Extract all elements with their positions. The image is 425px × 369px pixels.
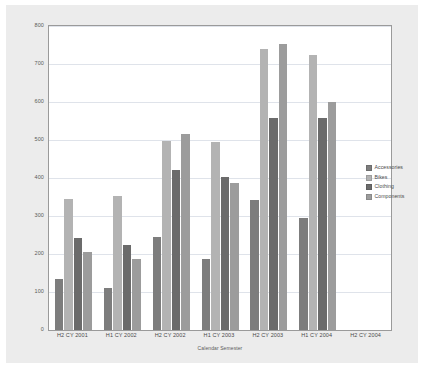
plot-area (48, 25, 392, 331)
bar (123, 245, 132, 330)
bar (299, 218, 308, 330)
y-axis-tick-label: 700 (35, 61, 44, 67)
chart-container: 0100200300400500600700800 H2 CY 2001H1 C… (0, 0, 425, 369)
legend-item-label: Clothing (375, 184, 394, 189)
bar (279, 44, 288, 330)
bar (172, 170, 181, 330)
bar (132, 259, 141, 330)
y-axis-tick-label: 0 (41, 327, 44, 333)
y-axis-tick-label: 100 (35, 289, 44, 295)
legend-item[interactable]: Components (366, 193, 422, 201)
x-axis-tick-label: H1 CY 2002 (106, 333, 137, 339)
bar (64, 199, 73, 330)
y-axis-tick-label: 200 (35, 251, 44, 257)
x-axis-tick-label: H1 CY 2004 (301, 333, 332, 339)
y-axis-tick-label: 500 (35, 137, 44, 143)
bar (309, 55, 318, 331)
legend-item-label: Accessories (375, 165, 404, 170)
legend-item[interactable]: Accessories (366, 164, 422, 172)
y-axis-tick-label: 800 (35, 23, 44, 29)
x-axis-tick-label: H2 CY 2001 (57, 333, 88, 339)
bar (113, 196, 122, 330)
bar (74, 238, 83, 330)
legend-swatch-icon (366, 194, 372, 200)
bar (230, 183, 239, 330)
gridline (49, 64, 391, 65)
bar (153, 237, 162, 330)
bar (202, 259, 211, 330)
bar (181, 134, 190, 330)
bar (211, 142, 220, 330)
bar (328, 102, 337, 330)
legend-item[interactable]: Clothing (366, 183, 422, 191)
gridline (49, 140, 391, 141)
legend-swatch-icon (366, 184, 372, 190)
x-axis-tick-label: H1 CY 2003 (204, 333, 235, 339)
gridline (49, 102, 391, 103)
bar (83, 252, 92, 330)
bar (221, 177, 230, 330)
legend-item[interactable]: Bikes (366, 174, 422, 182)
legend: AccessoriesBikesClothingComponents (366, 164, 422, 202)
x-axis-tick-label: H2 CY 2003 (252, 333, 283, 339)
chart-panel: 0100200300400500600700800 H2 CY 2001H1 C… (6, 5, 418, 363)
y-axis-tick-label: 400 (35, 175, 44, 181)
plot-inner (49, 26, 391, 330)
bar (104, 288, 113, 330)
bar (162, 141, 171, 330)
bar (269, 118, 278, 330)
bar (318, 118, 327, 330)
bar (260, 49, 269, 330)
y-axis-tick-label: 300 (35, 213, 44, 219)
y-axis-tick-label: 600 (35, 99, 44, 105)
legend-item-label: Components (375, 194, 405, 199)
x-axis-title: Calendar Semester (48, 345, 392, 351)
bar (250, 200, 259, 330)
legend-swatch-icon (366, 175, 372, 181)
legend-item-label: Bikes (375, 175, 388, 180)
x-axis-tick-label: H2 CY 2002 (155, 333, 186, 339)
gridline (49, 26, 391, 27)
y-axis: 0100200300400500600700800 (6, 25, 48, 331)
legend-swatch-icon (366, 165, 372, 171)
bar (55, 279, 64, 330)
x-axis-tick-label: H2 CY 2004 (350, 333, 381, 339)
